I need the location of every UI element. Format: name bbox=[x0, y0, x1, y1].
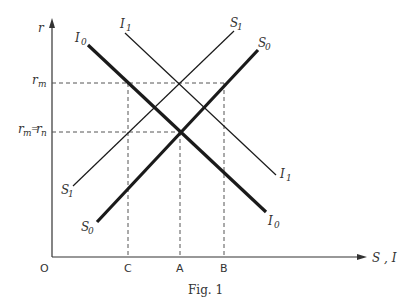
svg-text:I: I bbox=[267, 214, 273, 228]
x-tick-a: A bbox=[176, 262, 184, 275]
diagram-canvas: r O S , I r m r m = r n C A B I 0 I 0 I … bbox=[0, 0, 407, 307]
svg-text:I: I bbox=[74, 31, 80, 45]
label-i1-bottom: I 1 bbox=[279, 167, 292, 183]
x-tick-b: B bbox=[220, 262, 228, 275]
x-axis-arrow-icon bbox=[357, 254, 367, 260]
label-s0-bottom: S 0 bbox=[81, 220, 94, 236]
label-i0-top: I 0 bbox=[74, 31, 87, 47]
svg-text:1: 1 bbox=[68, 189, 74, 199]
origin-label: O bbox=[40, 262, 49, 275]
label-i1-top: I 1 bbox=[119, 17, 132, 33]
svg-text:1: 1 bbox=[126, 23, 132, 33]
y-axis-arrow-icon bbox=[49, 18, 55, 28]
figure-caption: Fig. 1 bbox=[188, 283, 223, 297]
x-tick-c: C bbox=[124, 262, 132, 275]
svg-text:I: I bbox=[279, 167, 285, 181]
svg-text:0: 0 bbox=[274, 220, 280, 230]
svg-text:n: n bbox=[41, 128, 47, 138]
svg-text:0: 0 bbox=[265, 42, 271, 52]
label-s0-top: S 0 bbox=[258, 36, 271, 52]
y-axis-label: r bbox=[38, 21, 45, 35]
guide-lines bbox=[52, 83, 224, 257]
svg-text:1: 1 bbox=[237, 22, 243, 32]
svg-text:0: 0 bbox=[88, 226, 94, 236]
svg-text:m: m bbox=[38, 79, 47, 89]
label-i0-bottom: I 0 bbox=[267, 214, 280, 230]
svg-text:I: I bbox=[119, 17, 125, 31]
label-s1-top: S 1 bbox=[230, 16, 243, 32]
y-tick-rm: r m bbox=[32, 73, 47, 89]
svg-text:1: 1 bbox=[286, 173, 292, 183]
curves bbox=[73, 31, 276, 222]
y-tick-rm-eq-rn: r m = r n bbox=[18, 122, 47, 138]
svg-text:0: 0 bbox=[81, 37, 87, 47]
x-axis-label: S , I bbox=[372, 251, 397, 265]
label-s1-bottom: S 1 bbox=[61, 183, 74, 199]
